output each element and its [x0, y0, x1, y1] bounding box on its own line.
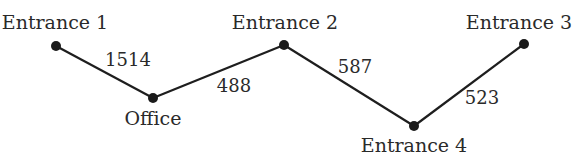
node-entrance-4	[409, 121, 419, 131]
node-entrance-3	[519, 39, 529, 49]
label-entrance-2: Entrance 2	[232, 11, 338, 33]
node-entrance-1	[51, 41, 61, 51]
edge-entrance4-entrance3	[414, 44, 524, 126]
path-diagram: Entrance 1 Office Entrance 2 Entrance 4 …	[0, 0, 585, 159]
label-office: Office	[124, 107, 181, 129]
label-entrance-4: Entrance 4	[361, 134, 467, 156]
label-entrance-3: Entrance 3	[466, 11, 572, 33]
weight-office-entrance2: 488	[217, 75, 251, 96]
node-office	[148, 93, 158, 103]
weight-entrance1-office: 1514	[105, 49, 151, 70]
label-entrance-1: Entrance 1	[2, 11, 108, 33]
node-entrance-2	[279, 40, 289, 50]
weight-entrance2-entrance4: 587	[338, 56, 372, 77]
weight-entrance4-entrance3: 523	[465, 87, 499, 108]
